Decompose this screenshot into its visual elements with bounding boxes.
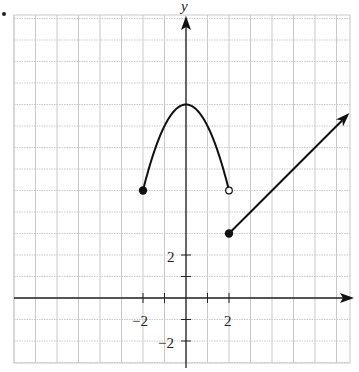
open-endpoint — [226, 187, 233, 194]
y-tick-label-2: 2 — [167, 249, 175, 265]
y-axis-label: y — [179, 0, 188, 14]
closed-endpoint — [139, 186, 147, 194]
grid — [14, 15, 350, 363]
y-tick-label-neg2: −2 — [158, 335, 174, 351]
piecewise-function-graph: y −2 2 2 −2 — [0, 0, 359, 372]
function-curves — [139, 105, 350, 238]
linear-ray — [229, 120, 342, 233]
x-tick-label-neg2: −2 — [132, 313, 148, 329]
closed-endpoint — [225, 229, 233, 237]
axes — [14, 16, 354, 368]
x-tick-label-2: 2 — [224, 313, 232, 329]
